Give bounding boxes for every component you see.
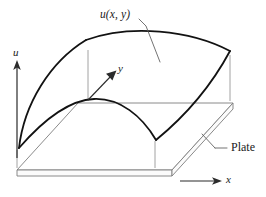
y-axis-label: y [118, 63, 123, 74]
figure-container: u(x, y) u y x Plate [0, 0, 266, 197]
u-axis-label: u [13, 47, 19, 58]
y-axis-line [88, 75, 112, 100]
surface-function-label: u(x, y) [100, 9, 130, 21]
leader-line-u-function [139, 19, 160, 62]
x-axis-label: x [226, 174, 231, 185]
plate-front-face [17, 170, 172, 176]
surface-over-plate-diagram [0, 0, 266, 197]
plate-shape [17, 103, 233, 176]
surface-back-edge [86, 31, 230, 51]
plate-top-face [17, 103, 233, 170]
plate-label: Plate [231, 141, 255, 153]
